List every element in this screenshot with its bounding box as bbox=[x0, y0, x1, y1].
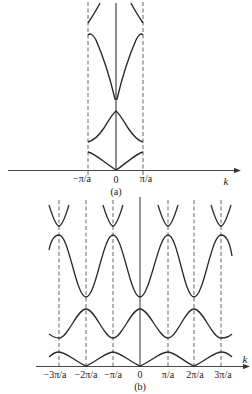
tick-label-neg-pi-b: −π/a bbox=[104, 370, 122, 380]
band-structure-diagram bbox=[0, 0, 252, 394]
band-4-left bbox=[88, 3, 100, 23]
tick-label-neg-pi-a: −π/a bbox=[73, 174, 91, 184]
panel-b bbox=[36, 197, 249, 367]
caption-b: (b) bbox=[134, 381, 146, 392]
tick-label-neg-3pi-b: −3π/a bbox=[44, 370, 67, 380]
tick-label-neg-2pi-b: −2π/a bbox=[75, 370, 98, 380]
panel-a bbox=[8, 2, 240, 176]
tick-label-pi-a: π/a bbox=[140, 174, 152, 184]
tick-label-zero-a: 0 bbox=[114, 175, 119, 185]
tick-label-pi-b: π/a bbox=[162, 370, 174, 380]
tick-label-zero-b: 0 bbox=[138, 370, 143, 380]
tick-label-3pi-b: 3π/a bbox=[214, 370, 231, 380]
k-axis-label-b: k bbox=[243, 354, 248, 365]
k-axis-label-a: k bbox=[224, 176, 229, 187]
caption-a: (a) bbox=[110, 186, 121, 197]
band-4-right bbox=[131, 3, 143, 23]
tick-label-2pi-b: 2π/a bbox=[186, 370, 203, 380]
